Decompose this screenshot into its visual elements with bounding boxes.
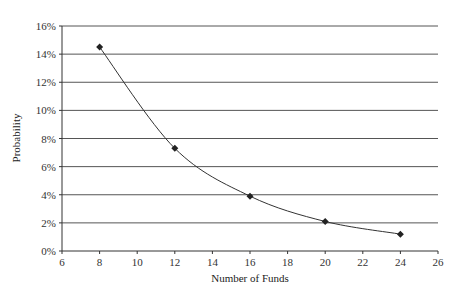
x-tick-label: 18 (282, 256, 294, 268)
y-axis-tick-labels: 0%2%4%6%8%10%12%14%16% (36, 20, 62, 257)
x-tick-label: 24 (395, 256, 407, 268)
y-tick-label: 10% (36, 104, 56, 116)
diamond-marker-icon (247, 193, 254, 200)
x-tick-label: 20 (320, 256, 332, 268)
x-tick-label: 26 (433, 256, 445, 268)
diamond-marker-icon (96, 44, 103, 51)
diamond-marker-icon (397, 231, 404, 238)
data-point-markers (96, 44, 404, 238)
x-tick-label: 16 (245, 256, 257, 268)
y-tick-label: 8% (41, 133, 56, 145)
y-tick-label: 14% (36, 48, 56, 60)
x-axis-title: Number of Funds (211, 272, 289, 284)
x-tick-label: 6 (59, 256, 65, 268)
x-tick-label: 10 (132, 256, 144, 268)
probability-line-chart: 0%2%4%6%8%10%12%14%16% 68101214161820222… (0, 0, 462, 290)
y-axis-title: Probability (10, 113, 22, 162)
x-tick-label: 22 (357, 256, 368, 268)
y-tick-label: 4% (41, 189, 56, 201)
x-tick-label: 12 (169, 256, 180, 268)
y-tick-label: 16% (36, 20, 56, 32)
y-tick-label: 12% (36, 76, 56, 88)
x-tick-label: 14 (207, 256, 219, 268)
series-line (100, 47, 401, 234)
x-axis-tick-labels: 68101214161820222426 (59, 251, 444, 268)
y-tick-label: 6% (41, 161, 56, 173)
diamond-marker-icon (322, 218, 329, 225)
y-tick-label: 2% (41, 217, 56, 229)
x-tick-label: 8 (97, 256, 103, 268)
y-tick-label: 0% (41, 245, 56, 257)
